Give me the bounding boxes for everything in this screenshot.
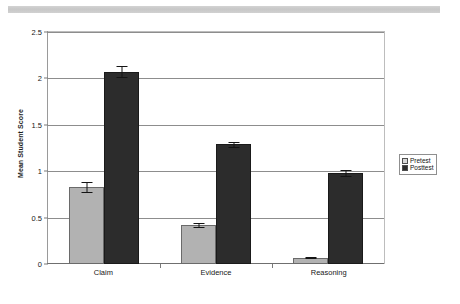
error-bar-cap-lower: [340, 176, 351, 177]
error-bar-cap-lower: [193, 227, 204, 228]
legend-label-posttest: Posttest: [410, 164, 433, 171]
x-axis-labels: ClaimEvidenceReasoning: [47, 268, 385, 277]
bar-pretest-evidence[interactable]: [181, 225, 216, 264]
legend-item-pretest[interactable]: Pretest: [402, 157, 433, 164]
error-bar-cap-lower: [228, 147, 239, 148]
error-bar-line: [86, 182, 87, 191]
bar-slot: [216, 32, 251, 264]
bar-slot: [293, 32, 328, 264]
error-bar-line: [121, 66, 122, 77]
bar-slot: [181, 32, 216, 264]
bar-slot: [104, 32, 139, 264]
plot-inner: 00.511.522.5: [48, 32, 384, 264]
error-bar-cap-upper: [116, 66, 127, 67]
bar-group: [160, 32, 272, 264]
bar-group-bars: [272, 32, 384, 264]
bar-groups: [48, 32, 384, 264]
error-bar-cap-upper: [305, 257, 316, 258]
y-axis-title: Mean Student Score: [17, 89, 24, 199]
bar-group: [272, 32, 384, 264]
error-bar-cap-lower: [305, 258, 316, 259]
bar-chart-figure: Mean Student Score 00.511.522.5 ClaimEvi…: [0, 18, 460, 304]
x-axis-label-reasoning: Reasoning: [272, 268, 385, 277]
plot-area: 00.511.522.5: [47, 31, 385, 264]
x-axis-label-claim: Claim: [47, 268, 160, 277]
bar-posttest-reasoning[interactable]: [328, 173, 363, 264]
error-bar-cap-upper: [193, 223, 204, 224]
error-bar-cap-lower: [116, 77, 127, 78]
chart-legend[interactable]: Pretest Posttest: [399, 154, 437, 175]
bar-posttest-evidence[interactable]: [216, 144, 251, 264]
bar-slot: [328, 32, 363, 264]
bar-slot: [69, 32, 104, 264]
legend-item-posttest[interactable]: Posttest: [402, 164, 433, 171]
bar-group-bars: [160, 32, 272, 264]
posttest-swatch-icon: [402, 165, 408, 171]
scan-artifact-band: [8, 6, 440, 13]
error-bar-cap-upper: [228, 142, 239, 143]
x-axis-label-evidence: Evidence: [160, 268, 273, 277]
legend-label-pretest: Pretest: [410, 157, 431, 164]
bar-group: [48, 32, 160, 264]
bar-posttest-claim[interactable]: [104, 72, 139, 264]
bar-group-bars: [48, 32, 160, 264]
pretest-swatch-icon: [402, 158, 408, 164]
error-bar-cap-lower: [81, 192, 92, 193]
bar-pretest-claim[interactable]: [69, 187, 104, 264]
error-bar-cap-upper: [340, 170, 351, 171]
error-bar-cap-upper: [81, 182, 92, 183]
